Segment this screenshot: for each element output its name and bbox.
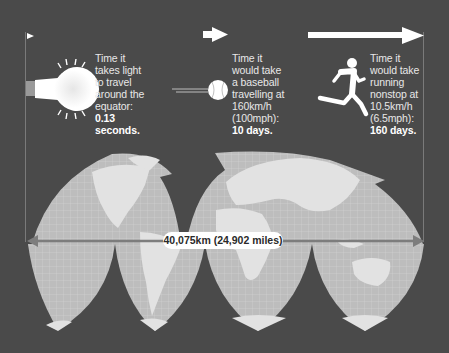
fact-line: (100mph): <box>232 112 284 124</box>
lightbulb-icon <box>26 59 99 119</box>
fact-line: running <box>370 76 419 88</box>
light-arrow-icon <box>27 33 34 39</box>
runner-arrow-icon <box>308 27 424 44</box>
fact-line: 160km/h <box>232 100 284 112</box>
runner-fact: Time it would take running nonstop at 10… <box>370 52 419 136</box>
fact-highlight: 160 days. <box>370 124 419 136</box>
fact-line: 10.5km/h <box>370 100 419 112</box>
fact-line: a baseball <box>232 76 284 88</box>
baseball-icon <box>172 80 228 100</box>
fact-line: would take <box>370 64 419 76</box>
light-fact: Time it takes light to travel around the… <box>95 52 144 136</box>
fact-line: travelling at <box>232 88 284 100</box>
fact-line: would take <box>232 64 284 76</box>
fact-line: nonstop at <box>370 88 419 100</box>
baseball-fact: Time it would take a baseball travelling… <box>232 52 284 136</box>
fact-highlight: seconds. <box>95 124 144 136</box>
equator-length-label: 40,075km (24,902 miles) <box>163 232 283 249</box>
runner-icon <box>320 58 366 114</box>
fact-line: takes light <box>95 64 144 76</box>
fact-line: Time it <box>95 52 144 64</box>
fact-line: equator: <box>95 100 144 112</box>
fact-line: Time it <box>370 52 419 64</box>
fact-highlight: 10 days. <box>232 124 284 136</box>
fact-line: to travel <box>95 76 144 88</box>
infographic-canvas: Time it takes light to travel around the… <box>0 0 449 353</box>
fact-line: (6.5mph): <box>370 112 419 124</box>
fact-line: Time it <box>232 52 284 64</box>
fact-line: around the <box>95 88 144 100</box>
baseball-arrow-icon <box>203 27 228 42</box>
fact-highlight: 0.13 <box>95 112 144 124</box>
